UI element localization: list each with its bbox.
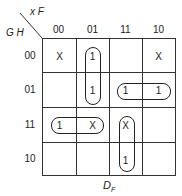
map-caption: DF xyxy=(103,179,115,193)
grouping-loop xyxy=(119,116,135,172)
row-label: 11 xyxy=(22,119,38,130)
column-label: 01 xyxy=(76,24,109,35)
row-label: 00 xyxy=(22,50,38,61)
cell xyxy=(76,143,109,177)
row-label: 10 xyxy=(22,153,38,164)
grouping-loop xyxy=(117,83,171,100)
cell: X xyxy=(142,39,175,73)
column-label: 10 xyxy=(142,24,175,35)
cell xyxy=(142,143,175,177)
caption-subscript: F xyxy=(111,186,115,193)
cell xyxy=(142,108,175,142)
row-variable-label: G H xyxy=(6,27,24,38)
cell xyxy=(109,39,142,73)
column-label: 11 xyxy=(109,24,142,35)
column-label: 00 xyxy=(42,24,75,35)
column-variable-label: x F xyxy=(30,6,44,17)
row-label: 01 xyxy=(22,84,38,95)
cell: X xyxy=(43,39,76,73)
grouping-loop xyxy=(51,117,104,134)
grouping-loop xyxy=(85,47,101,105)
caption-main: D xyxy=(103,179,111,191)
cell xyxy=(43,73,76,107)
cell xyxy=(43,143,76,177)
karnaugh-map-grid: X 1 X 1 1 1 1 X X 1 xyxy=(42,38,176,176)
